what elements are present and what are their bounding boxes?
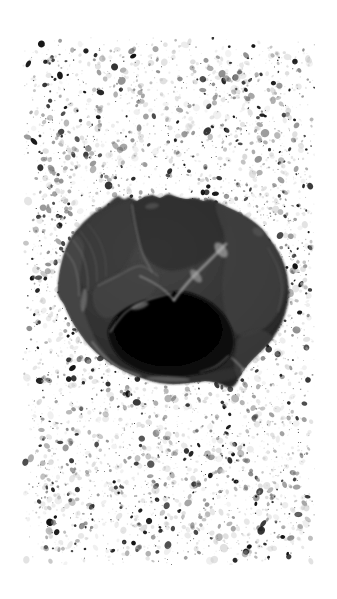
scanned-plate (0, 0, 337, 599)
speckle-canvas (22, 37, 315, 565)
scan-speckle-field (22, 37, 315, 565)
